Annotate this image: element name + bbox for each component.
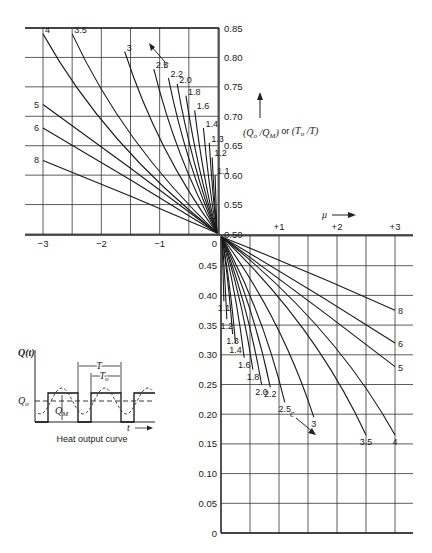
svg-text:0.85: 0.85 — [224, 23, 243, 34]
svg-text:−2: −2 — [96, 238, 107, 249]
svg-text:8: 8 — [398, 306, 403, 316]
svg-text:5: 5 — [34, 100, 39, 110]
heat-output-chart: 0.500.550.600.650.700.750.800.85−3−2−100… — [0, 0, 432, 553]
lower-right-grid — [221, 236, 413, 533]
axes — [25, 28, 413, 533]
svg-text:1.2: 1.2 — [214, 148, 227, 158]
svg-text:−1: −1 — [154, 238, 165, 249]
svg-text:6: 6 — [398, 339, 403, 349]
svg-text:Qo: Qo — [18, 395, 29, 408]
svg-text:0.70: 0.70 — [224, 111, 243, 122]
svg-text:0.15: 0.15 — [199, 438, 218, 449]
svg-text:QM: QM — [55, 405, 69, 418]
svg-text:Q(t): Q(t) — [18, 347, 35, 359]
svg-text:c: c — [164, 59, 169, 70]
svg-text:0.35: 0.35 — [199, 320, 218, 331]
svg-text:0.65: 0.65 — [224, 140, 243, 151]
svg-text:8: 8 — [34, 155, 39, 165]
svg-text:1.8: 1.8 — [247, 372, 260, 382]
svg-text:0.05: 0.05 — [199, 498, 218, 509]
svg-text:0.75: 0.75 — [224, 81, 243, 92]
svg-text:0.45: 0.45 — [199, 260, 218, 271]
svg-text:To: To — [99, 370, 109, 383]
svg-text:0: 0 — [212, 238, 217, 249]
heat-output-inset: Q(t)QoQMTTotHeat output curve — [18, 347, 155, 444]
svg-text:4: 4 — [45, 25, 50, 35]
svg-text:+3: +3 — [390, 221, 401, 232]
svg-text:1.4: 1.4 — [229, 345, 242, 355]
svg-text:1.6: 1.6 — [197, 101, 210, 111]
svg-text:2.2: 2.2 — [264, 389, 277, 399]
svg-text:6: 6 — [34, 123, 39, 133]
svg-text:0.55: 0.55 — [224, 199, 243, 210]
svg-text:μ: μ — [321, 209, 327, 220]
svg-text:0.10: 0.10 — [199, 468, 218, 479]
svg-text:3.5: 3.5 — [74, 25, 87, 35]
svg-text:+2: +2 — [332, 221, 343, 232]
svg-text:1.1: 1.1 — [217, 166, 230, 176]
upper-left-grid — [25, 28, 218, 234]
svg-text:2.2: 2.2 — [170, 69, 183, 79]
svg-text:0.40: 0.40 — [199, 290, 218, 301]
svg-text:4: 4 — [392, 437, 397, 447]
svg-text:3: 3 — [311, 419, 316, 429]
svg-text:0.25: 0.25 — [199, 379, 218, 390]
svg-text:−3: −3 — [38, 238, 49, 249]
svg-text:0.20: 0.20 — [199, 409, 218, 420]
svg-text:Heat output curve: Heat output curve — [56, 434, 127, 444]
svg-text:0.50: 0.50 — [224, 229, 243, 240]
svg-text:1.1: 1.1 — [218, 303, 231, 313]
svg-text:1.3: 1.3 — [211, 134, 224, 144]
svg-text:1.4: 1.4 — [205, 119, 218, 129]
svg-text:c: c — [290, 408, 295, 419]
svg-text:1.8: 1.8 — [188, 87, 201, 97]
svg-text:5: 5 — [398, 363, 403, 373]
svg-text:0.80: 0.80 — [224, 52, 243, 63]
lower-right-curves: 1.11.21.31.41.61.82.02.22.533.54568 — [218, 237, 403, 447]
svg-text:0: 0 — [212, 528, 217, 539]
svg-text:3.5: 3.5 — [360, 437, 373, 447]
svg-text:+1: +1 — [274, 221, 285, 232]
y-axis-label: (Qo /QM) or (To /T) — [243, 125, 319, 140]
svg-text:1.6: 1.6 — [238, 360, 251, 370]
svg-text:0.30: 0.30 — [199, 349, 218, 360]
upper-left-curves: 1.11.21.31.41.61.82.02.22.533.54568 — [34, 25, 230, 233]
svg-text:t: t — [127, 422, 130, 433]
svg-text:3: 3 — [127, 43, 132, 53]
